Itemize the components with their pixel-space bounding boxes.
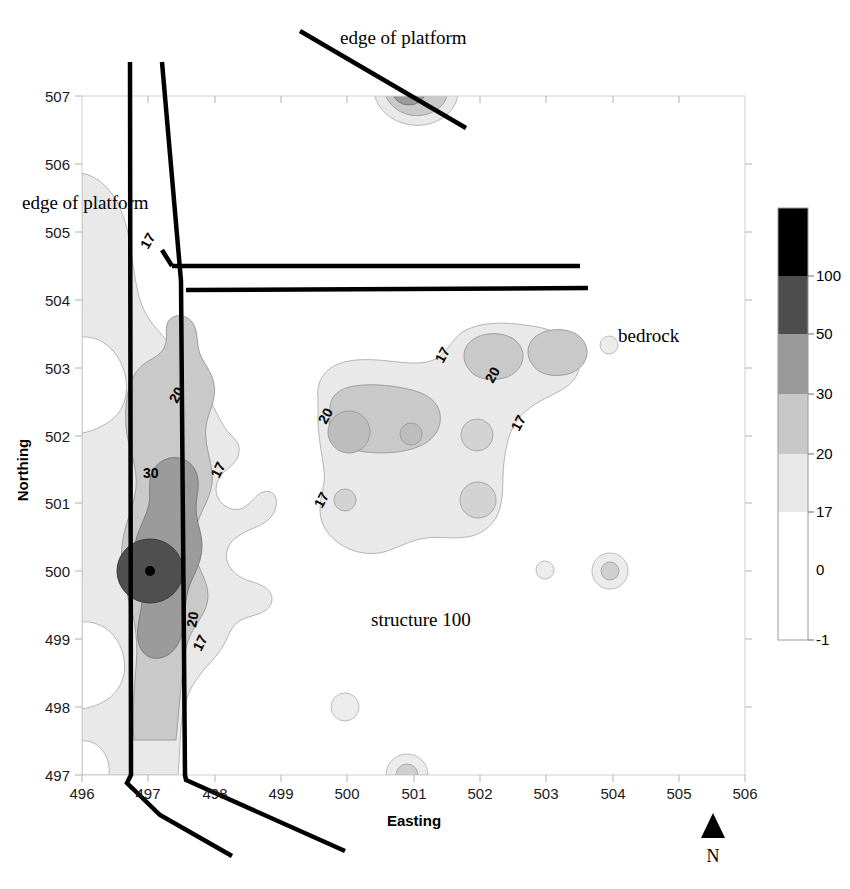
contour-region-20-central-northeast bbox=[528, 330, 587, 376]
contour-spot-central-1 bbox=[328, 411, 370, 453]
contour-label: 20 bbox=[183, 610, 201, 628]
line-wall-horizontal-lower bbox=[186, 288, 588, 290]
colorbar-band-30 bbox=[778, 334, 808, 394]
label-edge-of-platform-left: edge of platform bbox=[22, 192, 149, 213]
contour-region-100-west bbox=[145, 566, 155, 576]
y-tick-label: 502 bbox=[45, 428, 70, 445]
colorbar-band-50 bbox=[778, 276, 808, 334]
y-tick-label: 497 bbox=[45, 767, 70, 784]
contour-spot-central-4 bbox=[334, 489, 356, 511]
colorbar-band-100 bbox=[778, 208, 808, 276]
colorbar-label: 100 bbox=[816, 267, 841, 284]
colorbar-band-0 bbox=[778, 512, 808, 570]
label-structure-100: structure 100 bbox=[371, 609, 471, 630]
y-tick-label: 499 bbox=[45, 631, 70, 648]
contour-spot-central-2 bbox=[400, 423, 422, 445]
y-tick-label: 498 bbox=[45, 699, 70, 716]
x-tick-label: 500 bbox=[334, 785, 359, 802]
x-tick-label: 504 bbox=[600, 785, 625, 802]
y-tick-label: 506 bbox=[45, 156, 70, 173]
contour-spot-504-500-inner bbox=[601, 562, 619, 580]
label-bedrock: bedrock bbox=[618, 325, 680, 346]
colorbar-band-20 bbox=[778, 394, 808, 454]
colorbar-band-neg1 bbox=[778, 570, 808, 640]
colorbar-label: 50 bbox=[816, 325, 833, 342]
colorbar-label: 17 bbox=[816, 503, 833, 520]
y-tick-label: 503 bbox=[45, 360, 70, 377]
contour-spot-500-498 bbox=[331, 693, 359, 721]
contour-spot-central-3 bbox=[461, 419, 493, 451]
x-tick-label: 497 bbox=[135, 785, 160, 802]
x-tick-label: 506 bbox=[732, 785, 757, 802]
y-tick-label: 507 bbox=[45, 88, 70, 105]
label-edge-of-platform-top: edge of platform bbox=[340, 27, 467, 48]
y-tick-label: 504 bbox=[45, 292, 70, 309]
x-tick-label: 501 bbox=[401, 785, 426, 802]
y-tick-label: 500 bbox=[45, 563, 70, 580]
x-tick-label: 502 bbox=[467, 785, 492, 802]
x-axis-title: Easting bbox=[387, 812, 441, 829]
x-tick-label: 498 bbox=[202, 785, 227, 802]
x-tick-label: 505 bbox=[666, 785, 691, 802]
colorbar-label: 0 bbox=[816, 561, 824, 578]
x-tick-label: 503 bbox=[533, 785, 558, 802]
x-tick-label: 496 bbox=[69, 785, 94, 802]
north-arrow-label: N bbox=[707, 846, 720, 866]
colorbar-label: 30 bbox=[816, 385, 833, 402]
contour-spot-central-5 bbox=[460, 482, 496, 518]
x-tick-label: 499 bbox=[268, 785, 293, 802]
contour-spot-504-503 bbox=[600, 336, 618, 354]
y-tick-label: 501 bbox=[45, 495, 70, 512]
contour-map-figure: 496 497 498 499 500 501 502 503 504 505 … bbox=[0, 0, 850, 889]
contour-label: 30 bbox=[143, 465, 159, 481]
contour-spot-503-500 bbox=[536, 561, 554, 579]
y-tick-label: 505 bbox=[45, 224, 70, 241]
colorbar-label: -1 bbox=[816, 631, 829, 648]
colorbar-label: 20 bbox=[816, 445, 833, 462]
colorbar-band-17 bbox=[778, 454, 808, 512]
y-axis-title: Northing bbox=[14, 439, 31, 501]
